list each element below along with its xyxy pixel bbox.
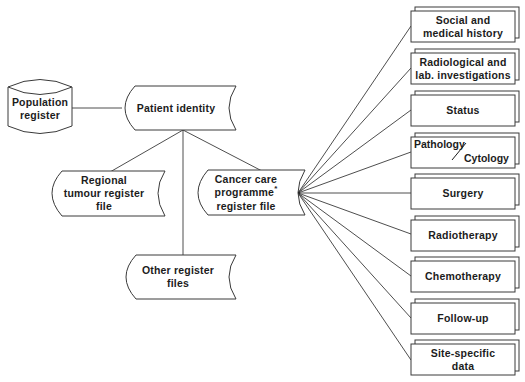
connector-cancer-radiotherapy <box>298 193 411 234</box>
other-register-label: Other register files <box>126 255 230 299</box>
cancer-care-line3: register file <box>216 200 275 213</box>
module-label-followup: Follow-up <box>411 303 515 334</box>
connector-cancer-status <box>298 110 411 193</box>
module-label-pathology: Pathology <box>414 138 465 150</box>
module-label-sitespecific: Site-specific data <box>411 344 515 375</box>
patient-identity-label: Patient identity <box>124 86 228 130</box>
connector-cancer-social <box>298 26 411 193</box>
module-label-radiological: Radiological and lab. investigations <box>411 53 515 84</box>
connector-cancer-followup <box>298 193 411 318</box>
cancer-care-label: Cancer care programme* register file <box>196 170 296 215</box>
connector-patient-cancer <box>183 130 262 171</box>
module-label-cytology: Cytology <box>464 152 509 164</box>
connector-cancer-radiological <box>298 68 411 193</box>
module-label-chemotherapy: Chemotherapy <box>411 261 515 292</box>
cancer-care-line1: Cancer care <box>215 173 277 186</box>
cancer-care-line2: programme* <box>215 186 278 200</box>
connector-cancer-chemotherapy <box>298 193 411 276</box>
connector-cancer-sitespecific <box>298 193 411 360</box>
population-register-label: Population register <box>8 95 72 123</box>
module-label-radiotherapy: Radiotherapy <box>411 220 515 251</box>
module-label-status: Status <box>411 95 515 126</box>
module-label-social: Social and medical history <box>411 11 515 42</box>
connector-patient-regional <box>110 130 183 172</box>
regional-tumour-label: Regional tumour register file <box>52 171 156 216</box>
module-label-surgery: Surgery <box>411 178 515 209</box>
connector-cancer-pathology <box>298 152 411 193</box>
